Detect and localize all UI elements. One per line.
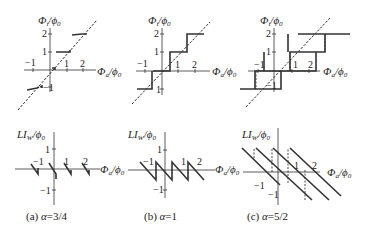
svg-text:2: 2 <box>197 156 202 167</box>
svg-text:1: 1 <box>156 84 161 95</box>
svg-text:−1: −1 <box>137 58 148 69</box>
svg-text:−1: −1 <box>266 80 277 91</box>
svg-text:1: 1 <box>175 59 180 70</box>
svg-text:1: 1 <box>294 160 299 171</box>
alpha-value: =3/4 <box>47 210 67 222</box>
caption-b: (b) α=1 <box>144 210 177 222</box>
alpha-value: =1 <box>165 210 177 222</box>
svg-text:Φi/ϕ0: Φi/ϕ0 <box>148 14 171 28</box>
svg-text:Φa/ϕ0: Φa/ϕ0 <box>323 65 348 79</box>
svg-text:LIW/ϕ0: LIW/ϕ0 <box>241 128 270 142</box>
diagram-canvas: Φi/ϕ0 2 1 −1 1 2 −1 Φa/ϕ0 Φi/ϕ0 2 1 −1 1… <box>0 0 365 233</box>
caption-c: (c) α=5/2 <box>247 210 288 222</box>
svg-text:−1: −1 <box>25 57 36 68</box>
svg-text:1: 1 <box>157 144 162 155</box>
svg-text:1: 1 <box>42 46 47 57</box>
svg-text:−1: −1 <box>254 180 265 191</box>
svg-text:2: 2 <box>192 59 197 70</box>
svg-text:Φa/ϕ0: Φa/ϕ0 <box>100 163 125 177</box>
svg-text:LIW/ϕ0: LIW/ϕ0 <box>16 128 45 142</box>
svg-text:1: 1 <box>154 46 159 57</box>
svg-text:−1: −1 <box>143 156 154 167</box>
svg-text:2: 2 <box>80 58 85 69</box>
svg-text:2: 2 <box>308 59 313 70</box>
svg-text:−1: −1 <box>40 185 51 196</box>
svg-text:1: 1 <box>64 156 69 167</box>
svg-text:1: 1 <box>45 144 50 155</box>
svg-text:−1: −1 <box>254 59 265 70</box>
svg-text:1: 1 <box>293 59 298 70</box>
caption-a: (a) α=3/4 <box>26 210 67 222</box>
svg-text:Φa/ϕ0: Φa/ϕ0 <box>327 166 352 180</box>
svg-text:LIW/ϕ0: LIW/ϕ0 <box>127 128 156 142</box>
svg-text:2: 2 <box>154 28 159 39</box>
caption-label: (c) <box>247 210 262 222</box>
svg-text:1: 1 <box>181 156 186 167</box>
alpha-value: =5/2 <box>268 210 288 222</box>
svg-text:−1: −1 <box>268 189 279 200</box>
svg-text:2: 2 <box>266 28 271 39</box>
svg-text:Φa/ϕ0: Φa/ϕ0 <box>215 163 240 177</box>
panel-a-bottom <box>15 132 100 205</box>
svg-text:1: 1 <box>266 46 271 57</box>
svg-text:2: 2 <box>42 28 47 39</box>
svg-text:2: 2 <box>83 156 88 167</box>
svg-text:2: 2 <box>312 160 317 171</box>
panel-a-ylabel: Φi/ϕ0 <box>38 14 61 28</box>
caption-label: (a) <box>26 210 41 222</box>
caption-label: (b) <box>144 210 160 222</box>
svg-text:Φa/ϕ0: Φa/ϕ0 <box>212 65 237 79</box>
svg-text:−1: −1 <box>43 82 54 93</box>
svg-text:1: 1 <box>64 58 69 69</box>
svg-text:−1: −1 <box>33 156 44 167</box>
svg-text:−1: −1 <box>153 184 164 195</box>
panel-a-xlabel: Φa/ϕ0 <box>97 65 122 79</box>
svg-text:Φi/ϕ0: Φi/ϕ0 <box>260 14 283 28</box>
